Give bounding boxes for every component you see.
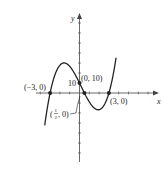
- y-axis-label: y: [70, 14, 75, 23]
- x-axis-label: x: [156, 97, 161, 106]
- axis-ticks: [40, 23, 148, 153]
- y-tick-label-10: 10: [68, 79, 76, 88]
- point-label-half: ( 1 2 , 0): [50, 96, 80, 120]
- point-label-y-intercept: (0, 10): [81, 74, 103, 83]
- point-label-neg3: (−3, 0): [24, 83, 46, 92]
- svg-text:(: (: [50, 110, 53, 119]
- point-label-3: (3, 0): [110, 97, 128, 106]
- cubic-function-plot: x y (−3, 0) (0, 10) 10 (3, 0) ( 1 2 , 0): [0, 0, 164, 169]
- axes: [36, 13, 159, 162]
- svg-text:, 0): , 0): [58, 110, 69, 119]
